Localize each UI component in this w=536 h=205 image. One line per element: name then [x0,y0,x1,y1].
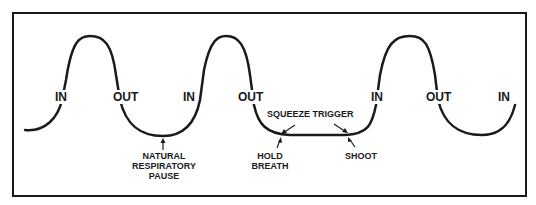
arrow-icon-shoot [348,137,355,147]
phase-label-out: OUT [237,90,264,104]
arrow-icon-squeeze-left [281,125,295,134]
waveform-curve [25,36,515,136]
arrow-icon-hold-breath [277,137,282,148]
phase-label-in: IN [370,90,384,104]
phase-label-in: IN [54,90,68,104]
phase-label-in: IN [182,90,196,104]
squeeze-trigger-label: SQUEEZE TRIGGER [266,109,355,119]
hold-breath-label: HOLD BREATH [250,151,290,171]
phase-label-in: IN [497,90,511,104]
arrow-icon-squeeze-right [334,124,348,133]
shoot-label: SHOOT [345,151,377,161]
breathing-waveform [0,0,536,205]
arrow-icon-natural-pause [161,138,166,150]
natural-respiratory-pause-label: NATURAL RESPIRATORY PAUSE [124,151,204,181]
phase-label-out: OUT [112,90,139,104]
phase-label-out: OUT [425,90,452,104]
